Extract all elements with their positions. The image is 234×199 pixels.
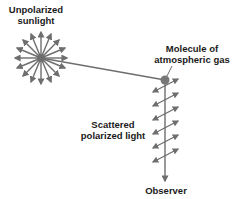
molecule-label-line1: Molecule of [150, 43, 234, 54]
molecule-icon [161, 76, 170, 85]
observer-label: Observer [138, 185, 194, 196]
sunlight-label-line1: Unpolarized [6, 4, 66, 15]
scattered-label-line2: polarized light [80, 130, 146, 141]
scattered-label-line1: Scattered [80, 119, 146, 130]
scattered-light-label: Scattered polarized light [80, 119, 146, 141]
polarization-diagram [0, 0, 234, 199]
molecule-label-line2: atmospheric gas [150, 54, 234, 65]
unpolarized-sunlight-label: Unpolarized sunlight [6, 4, 66, 26]
sunlight-label-line2: sunlight [6, 15, 66, 26]
molecule-label: Molecule of atmospheric gas [150, 43, 234, 65]
sunlight-ray [41, 58, 165, 80]
